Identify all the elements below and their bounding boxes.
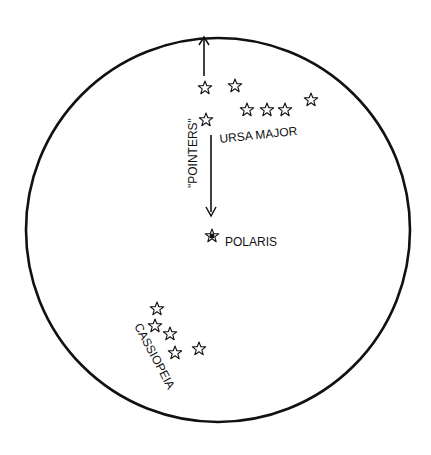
star-icon (199, 113, 212, 126)
star-icon (163, 327, 176, 340)
star-icon (240, 103, 253, 116)
star-icon (260, 103, 273, 116)
star-icon (168, 346, 181, 359)
sky-circle (26, 38, 410, 422)
polaris-label: POLARIS (225, 235, 277, 249)
star-icon (198, 81, 211, 94)
star-map: URSA MAJOR "POINTERS" POLARIS CASSIOPEIA (0, 0, 431, 455)
ursa-major-label: URSA MAJOR (219, 124, 298, 146)
ursa-major-stars (198, 79, 317, 126)
pointers-label: "POINTERS" (186, 118, 200, 188)
star-icon (148, 319, 161, 332)
polaris-star-icon (205, 229, 218, 242)
star-icon (304, 93, 317, 106)
star-icon (228, 79, 241, 92)
star-icon (192, 342, 205, 355)
star-icon (278, 103, 291, 116)
star-icon (150, 302, 163, 315)
